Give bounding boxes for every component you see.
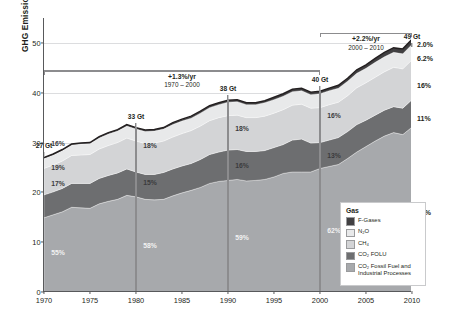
x-tick-mark-1990 [227, 291, 228, 294]
x-tick-label-2000: 2000 [312, 296, 328, 305]
legend-swatch-icon [346, 252, 355, 261]
share-label-1970-n2o: 19% [51, 164, 65, 171]
annotation-text: +1.3%/yr1970 – 2000 [44, 73, 320, 89]
share-label-2000-co2ff: 62% [327, 226, 341, 233]
x-tick-mark-2000 [319, 291, 320, 294]
decade-rule-1980 [135, 127, 137, 291]
share-label-2000-co2folu: 13% [327, 152, 341, 159]
legend-item-label: N₂O [358, 228, 369, 235]
x-tick-mark-1975 [89, 291, 90, 294]
x-tick-mark-1980 [135, 291, 136, 294]
x-tick-label-1970: 1970 [36, 296, 52, 305]
legend-swatch-icon [346, 263, 355, 272]
annotation-bar [320, 33, 412, 34]
share-label-1980-co2folu: 15% [143, 179, 157, 186]
right-share-11: 11% [417, 114, 431, 121]
x-tick-label-1975: 1975 [82, 296, 98, 305]
legend: Gas F-GasesN₂OCH₄CO₂ FOLUCO₂ Fossil Fuel… [340, 202, 426, 286]
legend-item-label: CH₄ [358, 240, 369, 247]
x-tick-label-1995: 1995 [266, 296, 282, 305]
legend-item-label: CO₂ FOLU [358, 251, 386, 258]
share-label-1990-co2ff: 59% [235, 234, 249, 241]
share-label-1970-co2folu: 17% [51, 180, 65, 187]
share-label-1980-co2ff: 58% [143, 241, 157, 248]
y-tick-label-50: 50 [32, 38, 40, 47]
annotation-rate: +1.3%/yr [44, 73, 320, 81]
x-tick-label-1990: 1990 [220, 296, 236, 305]
x-tick-mark-1995 [273, 291, 274, 294]
y-axis-label: GHG Emissions [GtCO2eq/yr] [20, 0, 32, 52]
y-tick-label-10: 10 [32, 238, 40, 247]
legend-item-4[interactable]: CO₂ Fossil Fuel and Industrial Processes [346, 263, 421, 278]
x-tick-label-1980: 1980 [128, 296, 144, 305]
decade-rule-1990 [227, 99, 229, 291]
decade-rule-2000 [319, 90, 321, 291]
legend-item-3[interactable]: CO₂ FOLU [346, 251, 421, 260]
right-share-20: 2.0% [417, 40, 433, 47]
y-tick-label-20: 20 [32, 188, 40, 197]
legend-item-label: CO₂ Fossil Fuel and Industrial Processes [358, 263, 421, 278]
legend-item-2[interactable]: CH₄ [346, 240, 421, 249]
share-label-1970-ch4: 16% [51, 139, 65, 146]
share-label-1970-co2ff: 55% [51, 249, 65, 256]
legend-swatch-icon [346, 229, 355, 238]
milestone-label-1980: 33 Gt [128, 113, 145, 120]
share-label-1990-co2folu: 16% [235, 161, 249, 168]
annotation-bar [44, 70, 320, 71]
annotation-text: +2.2%/yr2000 – 2010 [320, 35, 412, 51]
milestone-caret-1990 [227, 95, 228, 99]
legend-title: Gas [346, 207, 421, 214]
legend-item-label: F-Gases [358, 217, 381, 224]
annotation-period: 2000 – 2010 [320, 44, 412, 52]
x-tick-label-2010: 2010 [404, 296, 420, 305]
legend-swatch-icon [346, 217, 355, 226]
x-tick-mark-2005 [365, 291, 366, 294]
growth-annotation-1: +2.2%/yr2000 – 2010 [320, 33, 412, 55]
x-tick-mark-1970 [43, 291, 44, 294]
right-share-62: 6.2% [417, 54, 433, 61]
share-label-2000-ch4: 16% [327, 112, 341, 119]
y-tick-label-40: 40 [32, 88, 40, 97]
ghg-emissions-figure: GHG Emissions [GtCO2eq/yr] 01020304050 1… [0, 0, 452, 323]
x-tick-label-1985: 1985 [174, 296, 190, 305]
legend-item-0[interactable]: F-Gases [346, 217, 421, 226]
legend-items: F-GasesN₂OCH₄CO₂ FOLUCO₂ Fossil Fuel and… [346, 217, 421, 278]
milestone-caret-1980 [135, 123, 136, 127]
right-share-16: 16% [417, 82, 431, 89]
growth-annotation-0: +1.3%/yr1970 – 2000 [44, 70, 320, 92]
share-label-1990-ch4: 18% [235, 124, 249, 131]
legend-swatch-icon [346, 240, 355, 249]
annotation-period: 1970 – 2000 [44, 81, 320, 89]
x-tick-mark-2010 [411, 291, 412, 294]
x-tick-label-2005: 2005 [358, 296, 374, 305]
milestone-caret-1970 [43, 152, 44, 156]
share-label-1980-ch4: 18% [143, 142, 157, 149]
x-tick-mark-1985 [181, 291, 182, 294]
milestone-label-1970: 27 Gt [36, 142, 53, 149]
legend-item-1[interactable]: N₂O [346, 228, 421, 237]
annotation-rate: +2.2%/yr [320, 35, 412, 43]
